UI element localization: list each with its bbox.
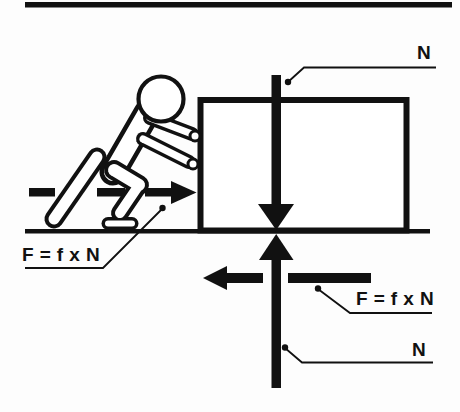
friction-forces-diagram [0,0,460,412]
top-rule-bar [25,2,452,8]
person-pushing-icon [54,77,200,224]
box [201,100,407,231]
left-arrow-icon [203,266,371,290]
leader-top-normal [285,68,436,86]
bottom-normal-force-label: N [412,340,426,359]
top-normal-force-label: N [417,43,431,62]
friction-force-formula-label: F = f x N [356,289,434,308]
up-arrow-icon [259,234,294,388]
applied-force-formula-label: F = f x N [22,245,100,264]
leader-bottom-normal [282,344,433,362]
friction-diagram-canvas: N F = f x N F = f x N N [0,0,460,412]
